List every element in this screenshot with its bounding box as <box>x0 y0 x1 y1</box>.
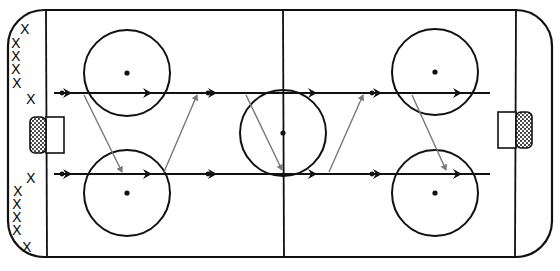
player-x-marker: X <box>12 75 22 91</box>
puck-dot-icon <box>370 91 375 96</box>
puck-dot-icon <box>206 172 211 177</box>
pass-line-5 <box>412 95 446 170</box>
right-goal-crease <box>498 112 516 148</box>
pass-line-2 <box>164 95 197 172</box>
player-x-marker: X <box>26 91 36 107</box>
puck-dot-icon <box>60 91 65 96</box>
pass-line-3 <box>246 95 282 170</box>
puck-dot-icon <box>60 172 65 177</box>
left-goal-crease <box>46 117 64 153</box>
faceoff-dot-bottom-right <box>432 190 437 195</box>
player-x-marker: X <box>12 222 22 238</box>
faceoff-dot-top-left <box>124 70 129 75</box>
player-x-marker: X <box>20 21 30 37</box>
pass-line-1 <box>84 95 122 172</box>
faceoff-dot-center <box>280 130 285 135</box>
rink-canvas: XXXXXXXXXXXX <box>0 0 560 271</box>
puck-dot-icon <box>370 172 375 177</box>
faceoff-dot-top-right <box>432 69 437 74</box>
player-x-marker: X <box>22 239 32 255</box>
puck-dot-icon <box>206 91 211 96</box>
pass-lines <box>84 95 446 172</box>
faceoff-dot-bottom-left <box>124 190 129 195</box>
pass-line-4 <box>329 95 363 172</box>
left-goal-net-icon <box>30 117 46 153</box>
hockey-drill-diagram: XXXXXXXXXXXX <box>0 0 560 271</box>
rink-layer <box>8 10 552 257</box>
player-x-marker: X <box>26 170 36 186</box>
right-goal-net-icon <box>516 112 532 148</box>
